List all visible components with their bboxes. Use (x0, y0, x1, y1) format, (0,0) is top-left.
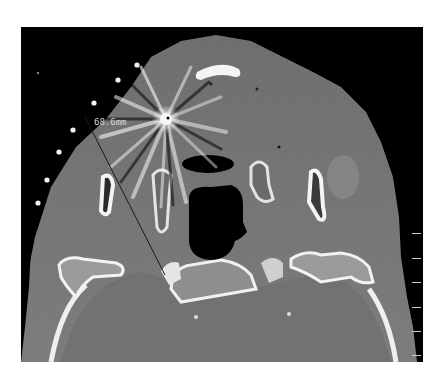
measurement-label: 68.6mm (94, 117, 127, 127)
ct-image-viewport: 68.6mm (21, 27, 423, 362)
scale-tick (412, 355, 421, 356)
scale-tick (412, 258, 421, 259)
mandible-ramus-left (101, 176, 113, 215)
scale-tick (412, 233, 421, 234)
scale-tick (412, 331, 421, 332)
scale-tick (412, 282, 421, 283)
scale-bar (409, 27, 423, 362)
ct-scan-image (21, 27, 423, 362)
scale-tick (412, 307, 421, 308)
